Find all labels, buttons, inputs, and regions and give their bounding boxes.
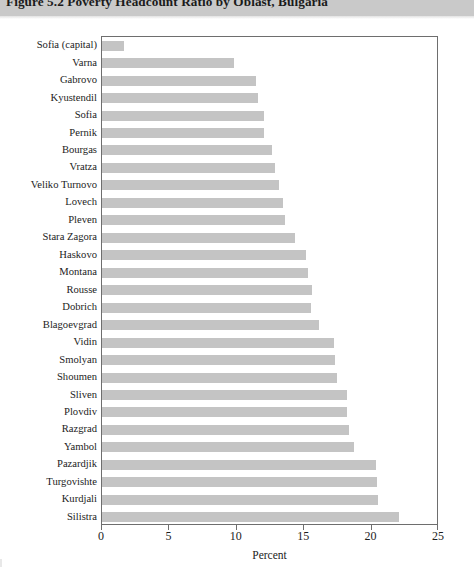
- category-label: Sliven: [0, 389, 97, 400]
- x-axis-tick-labels: 0510152025: [0, 529, 474, 545]
- bar: [102, 233, 295, 243]
- category-label: Varna: [0, 57, 97, 68]
- bar-row: [102, 456, 437, 473]
- bar-row: [102, 194, 437, 211]
- category-label: Blagoevgrad: [0, 319, 97, 330]
- bar: [102, 373, 337, 383]
- category-label: Bourgas: [0, 144, 97, 155]
- category-label: Kurdjali: [0, 493, 97, 504]
- bar: [102, 407, 347, 417]
- bar: [102, 198, 283, 208]
- x-tick-label: 25: [432, 529, 444, 544]
- bar-row: [102, 439, 437, 456]
- bar-row: [102, 107, 437, 124]
- bar-row: [102, 491, 437, 508]
- category-label: Sofia (capital): [0, 39, 97, 50]
- bar-row: [102, 351, 437, 368]
- bar-row: [102, 124, 437, 141]
- category-label: Gabrovo: [0, 74, 97, 85]
- bar: [102, 442, 354, 452]
- bar: [102, 390, 347, 400]
- category-label: Turgovishte: [0, 476, 97, 487]
- bar-row: [102, 334, 437, 351]
- category-label: Lovech: [0, 196, 97, 207]
- bar-row: [102, 299, 437, 316]
- bar: [102, 285, 312, 295]
- bar-row: [102, 247, 437, 264]
- bar-row: [102, 421, 437, 438]
- bar: [102, 111, 264, 121]
- bar: [102, 250, 306, 260]
- x-tick-label: 15: [297, 529, 309, 544]
- bar: [102, 93, 258, 103]
- category-label: Vratza: [0, 161, 97, 172]
- bar: [102, 128, 264, 138]
- bar-row: [102, 89, 437, 106]
- category-axis-labels: Sofia (capital)VarnaGabrovoKyustendilSof…: [0, 36, 97, 525]
- category-label: Plovdiv: [0, 406, 97, 417]
- bar-row: [102, 212, 437, 229]
- category-label: Pernik: [0, 127, 97, 138]
- x-tick-label: 20: [365, 529, 377, 544]
- bar: [102, 215, 285, 225]
- category-label: Veliko Turnovo: [0, 179, 97, 190]
- bar: [102, 425, 349, 435]
- bar-row: [102, 177, 437, 194]
- bar: [102, 41, 124, 51]
- bar: [102, 163, 275, 173]
- bar: [102, 512, 399, 522]
- category-label: Razgrad: [0, 423, 97, 434]
- bar: [102, 338, 334, 348]
- bar-row: [102, 316, 437, 333]
- bar-row: [102, 386, 437, 403]
- x-tick-label: 0: [98, 529, 104, 544]
- category-label: Smolyan: [0, 354, 97, 365]
- bar-row: [102, 159, 437, 176]
- category-label: Silistra: [0, 511, 97, 522]
- plot-frame: [101, 36, 438, 525]
- category-label: Shoumen: [0, 371, 97, 382]
- category-label: Stara Zagora: [0, 231, 97, 242]
- figure-title-band: Figure 5.2 Poverty Headcount Ratio by Ob…: [0, 0, 474, 16]
- bar: [102, 460, 376, 470]
- category-label: Montana: [0, 266, 97, 277]
- bars-layer: [102, 37, 437, 524]
- category-label: Sofia: [0, 109, 97, 120]
- category-label: Kyustendil: [0, 92, 97, 103]
- bar-row: [102, 264, 437, 281]
- bar-row: [102, 474, 437, 491]
- bar-row: [102, 369, 437, 386]
- bar-row: [102, 509, 437, 526]
- bar: [102, 268, 308, 278]
- bar: [102, 180, 279, 190]
- bar: [102, 477, 377, 487]
- bar: [102, 320, 319, 330]
- bar: [102, 145, 272, 155]
- bar: [102, 76, 256, 86]
- category-label: Haskovo: [0, 249, 97, 260]
- bar: [102, 58, 234, 68]
- category-label: Pleven: [0, 214, 97, 225]
- bar-row: [102, 404, 437, 421]
- bar-row: [102, 37, 437, 54]
- figure-area: Sofia (capital)VarnaGabrovoKyustendilSof…: [0, 19, 474, 559]
- category-label: Yambol: [0, 441, 97, 452]
- bar: [102, 495, 378, 505]
- figure-title: Figure 5.2 Poverty Headcount Ratio by Ob…: [6, 0, 328, 10]
- category-label: Vidin: [0, 336, 97, 347]
- bar-row: [102, 72, 437, 89]
- bar-row: [102, 282, 437, 299]
- x-tick-label: 10: [230, 529, 242, 544]
- bar: [102, 355, 335, 365]
- category-label: Pazardjik: [0, 458, 97, 469]
- bar: [102, 303, 311, 313]
- x-axis-title: Percent: [101, 549, 438, 561]
- bar-row: [102, 54, 437, 71]
- category-label: Dobrich: [0, 301, 97, 312]
- category-label: Rousse: [0, 284, 97, 295]
- bar-row: [102, 229, 437, 246]
- bar-row: [102, 142, 437, 159]
- x-tick-label: 5: [165, 529, 171, 544]
